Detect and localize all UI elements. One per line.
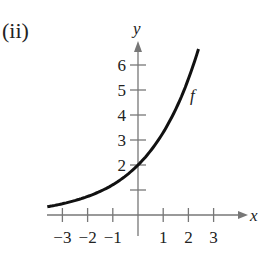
y-tick-label: 3 (118, 131, 127, 150)
x-axis-arrow-icon (238, 211, 248, 219)
y-axis-arrow-icon (134, 41, 142, 52)
series-f-label: f (190, 86, 197, 105)
y-tick-label: 4 (118, 106, 127, 125)
y-tick-labels: 23456 (118, 56, 127, 175)
graph: −3−2−1123 23456 x y f (0, 0, 260, 257)
y-tick-label: 5 (118, 81, 127, 100)
x-tick-label: −3 (53, 228, 71, 247)
axes (47, 52, 238, 236)
x-tick-label: 2 (184, 228, 193, 247)
y-tick-label: 2 (118, 156, 127, 175)
x-tick-label: 1 (159, 228, 168, 247)
x-tick-label: −1 (104, 228, 122, 247)
x-axis-label: x (249, 206, 258, 225)
x-tick-label: 3 (209, 228, 218, 247)
x-tick-labels: −3−2−1123 (53, 228, 217, 247)
y-tick-label: 6 (118, 56, 127, 75)
y-axis-label: y (131, 19, 141, 38)
x-tick-label: −2 (79, 228, 97, 247)
